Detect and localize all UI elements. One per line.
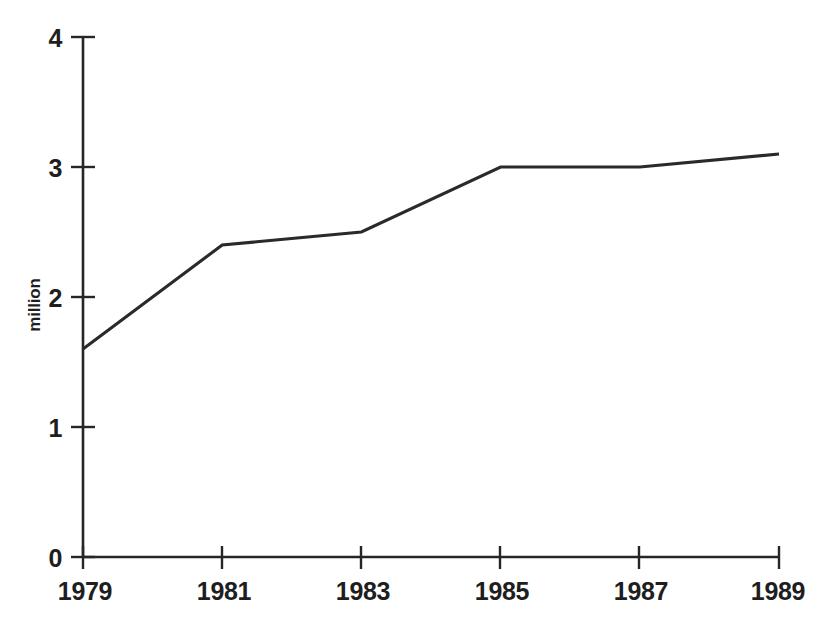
y-tick-label-2: 2: [48, 284, 62, 312]
x-tick-label-1989: 1989: [751, 577, 805, 605]
chart-container: 4 3 2 1 0 1979 1981 1983 1985 1987 1989 …: [0, 0, 827, 620]
y-axis-title: million: [25, 278, 44, 331]
x-tick-label-1981: 1981: [197, 577, 252, 605]
y-tick-label-4: 4: [48, 24, 62, 52]
y-tick-label-0: 0: [48, 544, 62, 572]
x-tick-label-1983: 1983: [336, 577, 390, 605]
x-tick-label-1979: 1979: [58, 577, 112, 605]
y-tick-label-1: 1: [48, 414, 62, 442]
line-chart: 4 3 2 1 0 1979 1981 1983 1985 1987 1989 …: [0, 0, 827, 620]
x-tick-label-1987: 1987: [614, 577, 668, 605]
x-tick-label-1985: 1985: [475, 577, 530, 605]
chart-background: [0, 0, 827, 620]
y-tick-label-3: 3: [48, 154, 62, 182]
